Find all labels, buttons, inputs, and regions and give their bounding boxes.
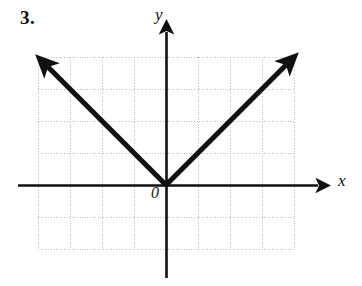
origin-label: 0 [151,185,159,201]
graph-figure: 3. y x 0 [0,0,362,286]
x-axis-label: x [338,172,346,189]
problem-number-label: 3. [20,8,35,27]
figure-background [0,0,362,286]
y-axis-label: y [155,6,163,23]
coordinate-plane-graphic [0,0,362,286]
